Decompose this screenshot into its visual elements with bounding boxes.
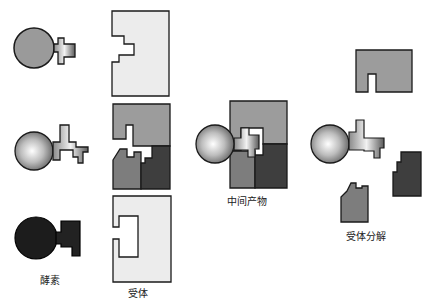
- enzyme-activated: [15, 125, 88, 170]
- split-pieces: [311, 50, 421, 222]
- substrate-assembled: [113, 104, 170, 189]
- label-substrate: 受体: [128, 285, 148, 300]
- enzyme-dark: [15, 217, 80, 259]
- label-substrate-split: 受体分解: [346, 228, 386, 243]
- enzyme-mechanism-diagram: [0, 0, 432, 302]
- substrate-key-slot: [113, 196, 171, 282]
- label-enzyme: 酵素: [40, 272, 60, 287]
- intermediate-complex: [196, 101, 287, 188]
- label-intermediate: 中间产物: [227, 193, 267, 208]
- substrate-cross-slot: [112, 11, 169, 96]
- enzyme-gray: [14, 28, 75, 68]
